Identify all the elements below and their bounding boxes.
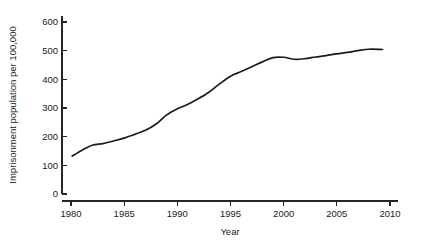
x-axis-title: Year <box>220 226 239 237</box>
x-tick-label: 1985 <box>114 208 135 219</box>
x-tick-label: 2005 <box>326 208 347 219</box>
line-chart: 0100200300400500600 19801985199019952000… <box>0 0 422 248</box>
y-tick-label: 100 <box>42 160 58 171</box>
y-axis-title: Imprisonment population per 100,000 <box>7 26 18 183</box>
y-tick-label: 0 <box>53 188 58 199</box>
x-axis-ticks: 1980198519901995200020052010 <box>60 201 400 219</box>
y-tick-label: 600 <box>42 16 58 27</box>
x-tick-label: 1980 <box>60 208 81 219</box>
chart-container: 0100200300400500600 19801985199019952000… <box>0 0 422 248</box>
data-line-1 <box>72 49 383 156</box>
y-tick-label: 400 <box>42 74 58 85</box>
x-tick-label: 2000 <box>273 208 294 219</box>
y-tick-label: 300 <box>42 102 58 113</box>
x-tick-label: 2010 <box>379 208 400 219</box>
data-series-group <box>72 49 383 156</box>
y-tick-label: 200 <box>42 131 58 142</box>
x-tick-label: 1995 <box>220 208 241 219</box>
x-tick-label: 1990 <box>167 208 188 219</box>
y-tick-label: 500 <box>42 45 58 56</box>
y-axis-ticks: 0100200300400500600 <box>42 16 67 199</box>
